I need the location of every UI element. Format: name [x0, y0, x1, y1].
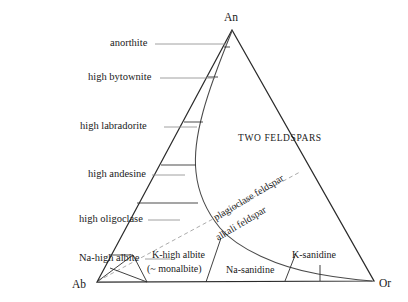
side-label-high-bytownite: high bytownite	[88, 72, 151, 83]
divider-khighalbite-nasanidine	[206, 238, 221, 282]
vertex-label-an: An	[224, 12, 238, 24]
side-label-high-oligoclase: high oligoclase	[79, 214, 143, 225]
side-label-anorthite: anorthite	[110, 38, 147, 49]
vertex-label-ab: Ab	[72, 279, 86, 291]
side-label-high-labradorite: high labradorite	[80, 121, 147, 132]
solvus-curve	[195, 31, 372, 281]
figure-canvas: An Ab Or anorthite high bytownite high l…	[0, 0, 408, 302]
triangle-outline	[97, 30, 374, 282]
vertex-label-or: Or	[379, 278, 391, 290]
field-divider-lines	[206, 238, 320, 282]
field-label-k-high-albite: K-high albite	[152, 250, 205, 260]
side-label-na-high-albite: Na-high albite	[79, 253, 139, 264]
field-label-monalbite: (~ monalbite)	[147, 264, 202, 274]
field-label-na-sanidine: Na-sanidine	[226, 265, 274, 275]
field-label-two-feldspars: TWO FELDSPARS	[238, 134, 322, 144]
field-label-k-sanidine: K-sanidine	[292, 250, 336, 260]
side-label-high-andesine: high andesine	[88, 169, 146, 180]
